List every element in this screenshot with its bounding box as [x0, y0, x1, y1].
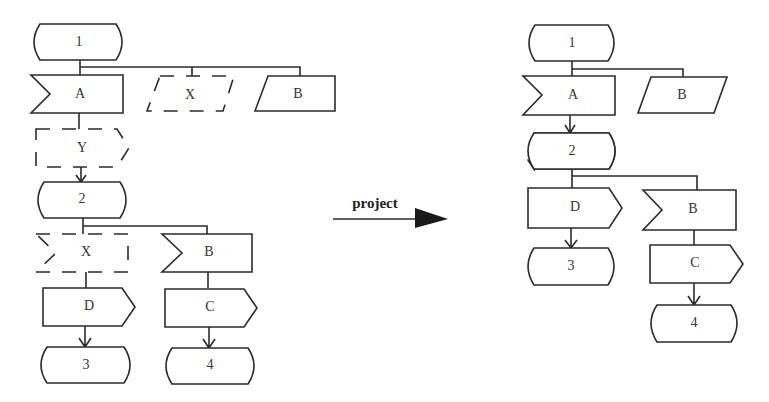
- left-node-c: C: [165, 289, 257, 327]
- left-node-y-dashed: Y: [36, 129, 129, 167]
- right-node-b-parallelogram: B: [638, 77, 727, 113]
- left-node-x2-dashed: X: [36, 234, 128, 272]
- left-node-d: D: [43, 288, 135, 326]
- right-terminal-4: 4: [651, 305, 737, 342]
- svg-text:project: project: [352, 195, 398, 211]
- project-arrow: project: [333, 195, 448, 228]
- left-terminal-1: 1: [34, 24, 122, 60]
- left-node-x-dashed: X: [147, 76, 234, 111]
- left-arrows-to-terminals: [79, 326, 215, 348]
- svg-text:B: B: [204, 244, 213, 259]
- svg-text:2: 2: [569, 143, 576, 158]
- right-arrow-c-4: [688, 283, 700, 305]
- svg-text:4: 4: [691, 315, 698, 330]
- left-arrow-y-2: [76, 167, 86, 182]
- svg-text:A: A: [75, 86, 86, 101]
- right-diagram: 1 A B 2 D B 3: [523, 25, 743, 342]
- right-terminal-2: 2: [528, 133, 615, 169]
- svg-text:A: A: [568, 87, 579, 102]
- left-node-b-parallelogram: B: [255, 76, 335, 111]
- svg-text:D: D: [570, 199, 580, 214]
- svg-text:C: C: [690, 255, 699, 270]
- svg-text:2: 2: [79, 191, 86, 206]
- right-arrow-a-2: [565, 115, 575, 133]
- svg-text:B: B: [677, 87, 686, 102]
- left-branch-connector-2: [83, 218, 207, 234]
- left-node-a: A: [31, 75, 123, 113]
- svg-text:4: 4: [207, 357, 214, 372]
- left-diagram: 1 A X B Y 2: [31, 24, 335, 384]
- left-node-b2-receive: B: [162, 234, 252, 272]
- right-arrow-d-3: [565, 228, 577, 248]
- svg-text:C: C: [205, 299, 214, 314]
- left-connectors-mid: [86, 272, 208, 288]
- svg-text:1: 1: [76, 34, 83, 49]
- left-terminal-4: 4: [166, 348, 254, 384]
- svg-text:1: 1: [569, 35, 576, 50]
- svg-text:B: B: [293, 86, 302, 101]
- right-terminal-1: 1: [529, 25, 614, 61]
- right-branch-connector-2: [572, 169, 697, 190]
- right-node-a: A: [523, 76, 615, 115]
- right-node-c: C: [650, 245, 743, 283]
- left-terminal-3: 3: [41, 347, 130, 383]
- svg-text:X: X: [81, 244, 91, 259]
- left-terminal-2: 2: [38, 182, 126, 218]
- left-branch-connector-1: [80, 60, 300, 76]
- right-terminal-3: 3: [528, 248, 614, 285]
- svg-text:Y: Y: [77, 140, 87, 155]
- right-node-b2-receive: B: [643, 190, 736, 230]
- svg-text:D: D: [84, 298, 94, 313]
- svg-text:X: X: [185, 87, 195, 102]
- svg-text:B: B: [688, 201, 697, 216]
- right-node-d: D: [528, 188, 622, 228]
- arrowhead-icon: [415, 208, 448, 228]
- flowchart-projection-diagram: 1 A X B Y 2: [0, 0, 769, 402]
- svg-text:3: 3: [83, 357, 90, 372]
- right-branch-connector-1: [572, 61, 683, 77]
- svg-text:3: 3: [568, 258, 575, 273]
